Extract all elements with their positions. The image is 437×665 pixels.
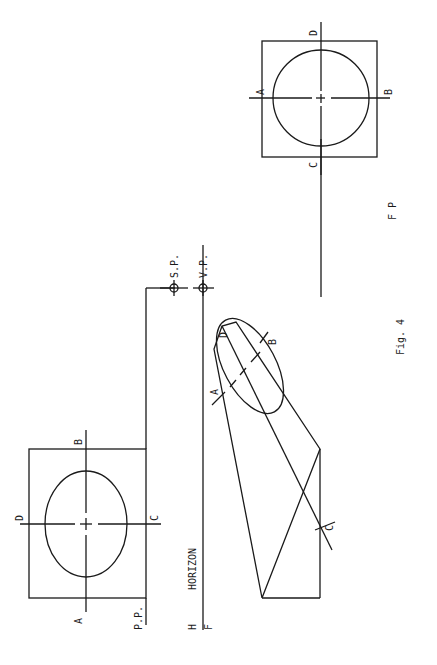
- right-label-c: C: [308, 162, 319, 168]
- right-square: [262, 41, 377, 157]
- left-label-a: A: [73, 618, 84, 624]
- left-label-c: C: [149, 515, 160, 521]
- perspective-label-d: D: [218, 332, 229, 338]
- perspective-label-a: A: [209, 389, 220, 395]
- perspective-drawing: A B C D P.P. H F HORIZON S.P. V.P.: [0, 0, 437, 665]
- perspective-label-c: C: [324, 525, 335, 531]
- right-label-b: B: [383, 89, 394, 95]
- vanishing-point-marker: V.P.: [193, 254, 214, 296]
- picture-plane-label: P.P.: [133, 606, 144, 630]
- left-square-figure: A B C D P.P.: [14, 288, 175, 630]
- perspective-label-b: B: [267, 339, 278, 345]
- right-label-a: A: [255, 89, 266, 95]
- ground-line-p-label: P: [387, 202, 398, 208]
- right-label-d: D: [308, 30, 319, 36]
- station-point-label: S.P.: [169, 254, 180, 278]
- left-label-d: D: [14, 515, 25, 521]
- horizon-f-label: F: [203, 624, 214, 630]
- horizon-group: H F HORIZON: [187, 245, 214, 630]
- horizon-text: HORIZON: [187, 548, 198, 590]
- figure-caption: Fig. 4: [395, 319, 406, 355]
- left-label-b: B: [73, 439, 84, 445]
- station-point-marker: S.P.: [160, 254, 188, 296]
- right-square-figure: A B C D F P: [249, 22, 398, 297]
- perspective-view: A B C D: [203, 308, 335, 598]
- ground-line-f-label: F: [387, 214, 398, 220]
- vanishing-point-label: V.P.: [198, 254, 209, 278]
- horizon-h-label: H: [187, 624, 198, 630]
